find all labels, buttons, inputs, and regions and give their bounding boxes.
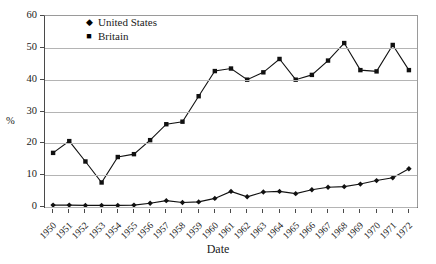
- legend-label: United States: [98, 15, 157, 29]
- x-axis-tick-mark: [311, 209, 312, 213]
- legend-label: Britain: [98, 29, 129, 43]
- x-axis-tick-mark: [117, 209, 118, 213]
- x-axis-tick-mark: [392, 209, 393, 213]
- gridlines: [45, 16, 417, 207]
- y-axis-tick-label: 10: [27, 169, 38, 179]
- x-axis-tick-mark: [133, 209, 134, 213]
- x-axis-tick-mark: [279, 209, 280, 213]
- x-axis-tick-mark: [343, 209, 344, 213]
- gridline: [45, 112, 417, 113]
- plot-area: [44, 15, 418, 208]
- x-axis-tick-mark: [84, 209, 85, 213]
- diamond-marker-icon: ◆: [83, 15, 95, 29]
- x-axis-tick-mark: [262, 209, 263, 213]
- x-axis-tick-mark: [359, 209, 360, 213]
- gridline: [45, 80, 417, 81]
- chart-figure: % 0102030405060 ◆United States■Britain 1…: [0, 0, 436, 264]
- legend-item: ◆United States: [83, 15, 157, 29]
- gridline: [45, 48, 417, 49]
- y-axis-tick-label: 50: [27, 42, 38, 52]
- x-axis-tick-mark: [246, 209, 247, 213]
- x-axis-tick-mark: [408, 209, 409, 213]
- chart-legend: ◆United States■Britain: [83, 15, 157, 43]
- x-axis-tick-mark: [181, 209, 182, 213]
- x-axis-tick-mark: [101, 209, 102, 213]
- gridline: [45, 207, 417, 208]
- x-axis-title: Date: [0, 243, 436, 255]
- x-axis-tick-mark: [376, 209, 377, 213]
- x-axis-tick-mark: [214, 209, 215, 213]
- x-axis-tick-mark: [165, 209, 166, 213]
- x-axis-tick-mark: [52, 209, 53, 213]
- x-axis-tick-mark: [68, 209, 69, 213]
- square-marker-icon: ■: [83, 29, 95, 43]
- gridline: [45, 143, 417, 144]
- x-axis-tick-mark: [295, 209, 296, 213]
- x-axis-tick-mark: [198, 209, 199, 213]
- legend-item: ■Britain: [83, 29, 157, 43]
- y-axis-tick-label: 40: [27, 74, 38, 84]
- y-axis-tick-label: 20: [27, 137, 38, 147]
- y-axis-tick-label: 60: [27, 10, 38, 20]
- x-axis-tick-mark: [230, 209, 231, 213]
- y-axis-tick-label: 30: [27, 106, 38, 116]
- x-axis-tick-mark: [327, 209, 328, 213]
- gridline: [45, 175, 417, 176]
- x-axis-tick-mark: [149, 209, 150, 213]
